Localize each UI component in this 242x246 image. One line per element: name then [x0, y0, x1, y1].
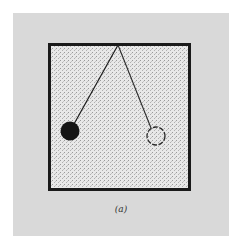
figure-caption: (a)	[0, 204, 242, 214]
frame-box	[50, 45, 190, 190]
bob-filled	[61, 122, 80, 141]
